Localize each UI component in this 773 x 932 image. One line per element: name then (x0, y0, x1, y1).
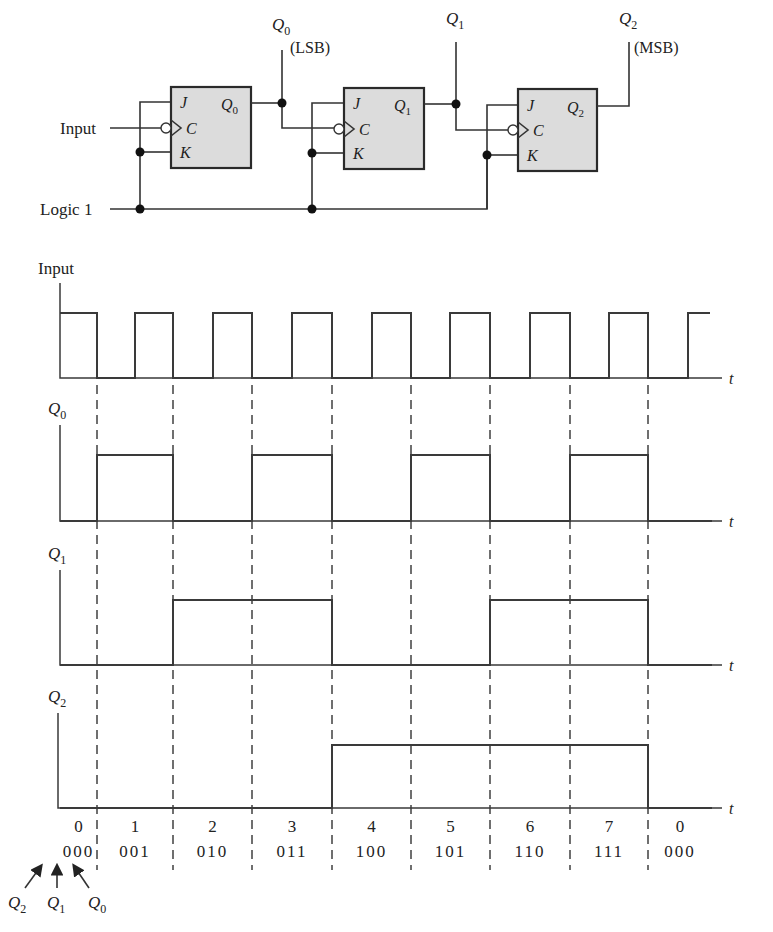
pin-k-label: K (352, 145, 365, 162)
time-label: t (729, 513, 734, 530)
count-state: 5101 (435, 817, 467, 861)
state-binary: 001 (119, 842, 151, 861)
junction-dot (136, 205, 145, 214)
state-decimal: 3 (288, 817, 297, 836)
clock-bubble-icon (508, 125, 518, 135)
signal-label-input: Input (38, 259, 74, 278)
state-binary: 111 (594, 842, 624, 861)
state-decimal: 6 (526, 817, 535, 836)
flip-flop-0: J C K Q0 (136, 50, 337, 214)
state-binary: 011 (277, 842, 308, 861)
count-state: 1001 (119, 817, 151, 861)
state-decimal: 0 (74, 817, 83, 836)
junction-dot (308, 149, 317, 158)
time-label: t (729, 800, 734, 817)
pin-c-label: C (533, 122, 544, 139)
signal-label-q1: Q1 (48, 544, 66, 567)
logic1-bus (110, 152, 487, 209)
count-state: 0000 (63, 817, 95, 861)
bit-order-legend: Q2 Q1 Q0 (8, 866, 106, 916)
ff2-j-wire (487, 105, 518, 209)
state-binary: 000 (63, 842, 95, 861)
lsb-note: (LSB) (290, 39, 330, 57)
pin-k-label: K (526, 147, 539, 164)
logic1-label: Logic 1 (40, 200, 92, 219)
waveform-q0: Q0 t (48, 399, 734, 530)
state-decimal: 4 (367, 817, 376, 836)
legend-q2: Q2 (8, 893, 26, 916)
waveform-line-q0 (60, 455, 712, 521)
signal-label-q2: Q2 (48, 687, 66, 710)
state-decimal: 0 (676, 817, 685, 836)
pin-k-label: K (179, 144, 192, 161)
count-states: 000010012010301141005101611071110000 (63, 817, 696, 861)
axis-input (60, 283, 722, 378)
junction-dot (452, 100, 461, 109)
state-binary: 000 (664, 842, 696, 861)
q0-to-ff1-clock (282, 50, 336, 128)
waveform-input: Input t (38, 259, 734, 387)
input-label: Input (60, 119, 96, 138)
junction-dot (136, 148, 145, 157)
count-state: 3011 (277, 817, 308, 861)
junction-dot (483, 151, 492, 160)
arrow-icon (74, 866, 89, 888)
axis-q1 (60, 570, 722, 665)
circuit-diagram: Input Logic 1 J C K Q0 Q0 (LSB) (40, 9, 678, 219)
junction-dot (308, 205, 317, 214)
pin-j-label: J (527, 97, 535, 114)
state-decimal: 2 (208, 817, 217, 836)
q0-output-label: Q0 (272, 15, 290, 38)
time-label: t (729, 657, 734, 674)
msb-note: (MSB) (634, 39, 678, 57)
pin-j-label: J (180, 94, 188, 111)
ripple-counter-figure: Input Logic 1 J C K Q0 Q0 (LSB) (0, 0, 773, 932)
count-state: 6110 (515, 817, 546, 861)
pin-j-label: J (353, 95, 361, 112)
ff1-j-wire (312, 103, 344, 209)
q1-to-ff2-clock (456, 42, 510, 130)
ff2-q-wire (597, 42, 629, 106)
clock-edge-guides (97, 385, 648, 870)
ff0-j-wire (140, 102, 171, 209)
time-label: t (729, 370, 734, 387)
pin-c-label: C (359, 121, 370, 138)
waveform-q1: Q1 t (48, 544, 734, 674)
state-binary: 010 (197, 842, 229, 861)
flip-flop-2: J C K Q2 (483, 42, 630, 209)
arrow-icon (25, 866, 41, 888)
count-state: 4100 (356, 817, 388, 861)
legend-q0: Q0 (88, 893, 106, 916)
state-decimal: 1 (131, 817, 140, 836)
q2-output-label: Q2 (619, 9, 637, 32)
axis-q2 (58, 713, 722, 808)
waveform-line-q1 (60, 600, 712, 665)
timing-diagram: Input t Q0 t Q1 t Q2 t 0000100120103011 (8, 259, 734, 916)
waveform-line-q2 (60, 745, 712, 808)
state-decimal: 5 (446, 817, 455, 836)
count-state: 7111 (594, 817, 624, 861)
clock-bubble-icon (334, 124, 344, 134)
junction-dot (278, 99, 287, 108)
state-binary: 110 (515, 842, 546, 861)
axis-q0 (60, 425, 722, 521)
q1-output-label: Q1 (446, 9, 464, 32)
state-binary: 100 (356, 842, 388, 861)
pin-c-label: C (186, 120, 197, 137)
state-binary: 101 (435, 842, 467, 861)
flip-flop-1: J C K Q1 (308, 42, 511, 214)
signal-label-q0: Q0 (48, 399, 66, 422)
clock-bubble-icon (161, 123, 171, 133)
count-state: 0000 (664, 817, 696, 861)
waveform-line-input (60, 313, 710, 378)
legend-q1: Q1 (47, 893, 65, 916)
waveform-q2: Q2 t (48, 687, 734, 817)
state-decimal: 7 (605, 817, 614, 836)
count-state: 2010 (197, 817, 229, 861)
